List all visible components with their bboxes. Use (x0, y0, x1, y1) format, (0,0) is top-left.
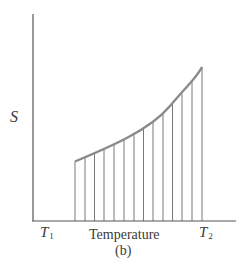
x-axis-label: Temperature (89, 227, 160, 243)
entropy-curve (75, 67, 202, 162)
t2-label-main: T (199, 224, 207, 240)
y-axis-label: S (10, 108, 18, 126)
entropy-temperature-figure: S T1 Temperature T2 (b) (0, 0, 247, 269)
t1-label-main: T (40, 224, 48, 240)
t1-label-sub: 1 (49, 231, 54, 241)
t2-label: T2 (199, 224, 213, 241)
figure-caption: (b) (115, 243, 131, 259)
t2-label-sub: 2 (208, 231, 213, 241)
t1-label: T1 (40, 224, 54, 241)
